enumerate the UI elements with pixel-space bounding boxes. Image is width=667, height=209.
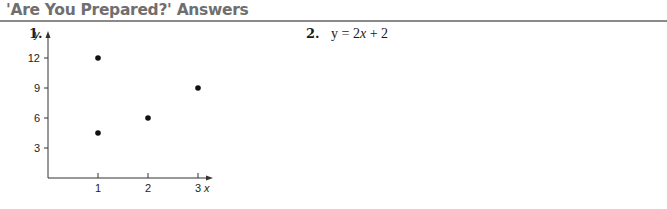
x-axis-arrow-icon: [206, 176, 213, 181]
ticks: 36912123: [28, 52, 201, 194]
data-point: [95, 55, 101, 61]
data-point: [95, 130, 101, 136]
x-axis-label: x: [203, 182, 210, 194]
x-tick-label: 1: [95, 182, 101, 194]
y-tick-label: 3: [34, 142, 40, 154]
data-points: [95, 55, 201, 136]
x-tick-label: 2: [145, 182, 151, 194]
y-axis-arrow-icon: [46, 31, 51, 38]
x-tick-label: 3: [195, 182, 201, 194]
data-point: [195, 85, 201, 91]
y-tick-label: 9: [34, 82, 40, 94]
y-tick-label: 6: [34, 112, 40, 124]
y-tick-label: 12: [28, 52, 40, 64]
data-point: [145, 115, 151, 121]
scatter-plot: yx 36912123: [0, 0, 667, 209]
y-axis-label: y: [33, 28, 41, 40]
axes: yx: [33, 28, 213, 194]
